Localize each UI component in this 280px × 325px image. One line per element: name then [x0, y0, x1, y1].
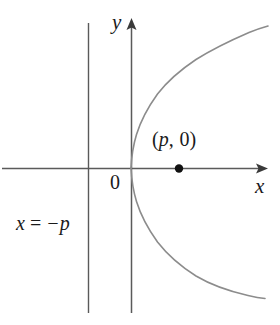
focus-point-label: (p, 0): [152, 129, 196, 149]
origin-label: 0: [110, 172, 120, 192]
directrix-equation-label: x = −p: [16, 213, 70, 233]
origin-label-text: 0: [110, 171, 120, 193]
figure-canvas: [0, 0, 280, 325]
x-axis-label-text: x: [255, 174, 264, 198]
focus-comma: ,: [169, 128, 175, 150]
parabola-lower-branch: [131, 168, 265, 299]
directrix-minus-p-symbol: −p: [46, 212, 70, 234]
directrix-x-symbol: x: [16, 212, 25, 234]
directrix-equals-sign: =: [30, 212, 41, 234]
focus-zero: 0: [179, 128, 189, 150]
paren-open: (: [152, 128, 159, 150]
paren-close: ): [189, 128, 196, 150]
x-axis-label: x: [255, 176, 264, 197]
y-axis-label: y: [112, 12, 121, 33]
focus-point-marker: [175, 164, 183, 172]
parabola-figure: y x 0 (p, 0) x = −p: [0, 0, 280, 325]
focus-p-symbol: p: [159, 128, 169, 150]
y-axis-label-text: y: [112, 10, 121, 34]
